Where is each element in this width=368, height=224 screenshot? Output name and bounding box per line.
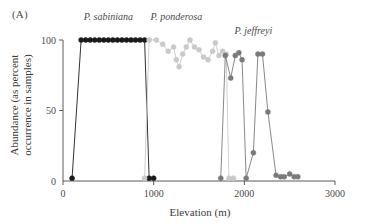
x-axis-ticks: 0100020003000 [61,181,346,199]
y-tick-label: 50 [46,105,56,116]
data-point [184,45,189,50]
y-axis-ticks: 501000 [41,35,63,187]
data-point [171,45,176,50]
series-line [145,40,234,178]
data-point [129,38,134,43]
series-label-1: P. sabiniana [83,11,133,22]
data-point [228,76,233,81]
data-series-group [70,38,301,181]
x-tick-label: 1000 [144,188,164,199]
data-point [101,38,106,43]
y-axis-title-line-1: Abundance (as percent [8,55,21,156]
data-point [295,174,300,179]
data-point [79,38,84,43]
data-point [206,57,211,62]
data-point [147,38,152,43]
data-point [83,38,88,43]
abundance-elevation-chart: 501000 0100020003000 P. sabinianaP. pond… [0,0,368,224]
data-point [274,173,279,178]
data-point [138,38,143,43]
data-point [133,38,138,43]
x-axis-title: Elevation (m) [170,206,231,219]
y-tick-label-zero: 0 [51,176,56,187]
data-point [192,45,197,50]
data-point [218,176,223,181]
series-3 [218,50,300,180]
data-point [97,38,102,43]
x-tick-label: 2000 [234,188,254,199]
figure-panel-a: (A) 501000 0100020003000 P. sabinianaP. … [0,0,368,224]
data-point [201,54,206,59]
data-point [187,38,192,43]
data-point [287,171,292,176]
data-point [88,38,93,43]
data-point [282,174,287,179]
series-line [221,53,298,178]
y-tick-label: 100 [41,35,56,46]
data-point [110,38,115,43]
data-point [244,176,249,181]
data-point [265,109,270,114]
data-point [177,64,182,69]
data-point [124,38,129,43]
data-point [174,57,179,62]
series-label-2: P. ponderosa [149,11,202,22]
data-point [231,176,236,181]
x-tick-label: 3000 [325,188,345,199]
data-point [197,47,202,52]
y-axis-title-line-2: occurrence in samples) [21,54,34,156]
series-annotations: P. sabinianaP. ponderosaP. jeffreyi [83,11,273,36]
data-point [160,42,165,47]
data-point [210,49,215,54]
data-point [142,38,147,43]
data-point [240,57,245,62]
data-point [147,176,152,181]
data-point [92,38,97,43]
data-point [213,40,218,45]
data-point [255,52,260,57]
data-point [236,50,241,55]
series-1 [70,38,157,181]
data-point [106,38,111,43]
data-point [226,176,231,181]
data-point [216,53,221,58]
data-point [142,176,147,181]
data-point [151,176,156,181]
data-point [70,176,75,181]
data-point [180,52,185,57]
data-point [154,38,159,43]
data-point [166,49,171,54]
axes: 501000 0100020003000 [41,35,345,200]
data-point [260,52,265,57]
data-point [115,38,120,43]
data-point [251,150,256,155]
data-point [119,38,124,43]
x-tick-label: 0 [61,188,66,199]
data-point [223,53,228,58]
series-label-3: P. jeffreyi [234,25,273,36]
series-line [72,40,154,178]
